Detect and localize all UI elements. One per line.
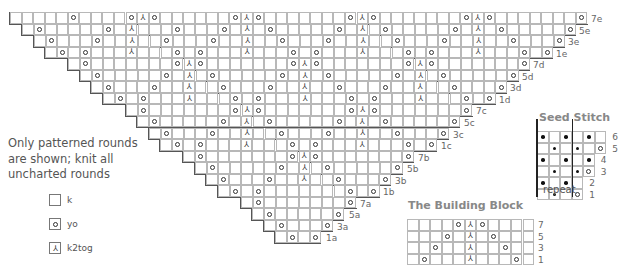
chart-cell <box>322 104 334 116</box>
chart-cell <box>403 81 415 93</box>
block-cell: ⅄ <box>465 242 477 254</box>
chart-cell <box>80 35 92 47</box>
chart-cell <box>149 104 161 116</box>
yo-icon <box>152 119 157 124</box>
yo-icon <box>579 15 584 20</box>
block-cell <box>407 254 419 266</box>
chart-cell <box>310 139 322 151</box>
yo-icon <box>164 131 169 136</box>
chart-cell <box>357 93 369 105</box>
chart-cell <box>288 104 300 116</box>
chart-cell <box>172 70 184 82</box>
chart-cell <box>172 12 184 24</box>
chart-cell <box>310 220 322 232</box>
repeat-label: repeat <box>543 184 576 195</box>
chart-cell <box>91 47 103 59</box>
chart-cell <box>311 47 323 59</box>
chart-cell <box>334 93 346 105</box>
ssk-icon: ⅄ <box>129 25 134 33</box>
chart-cell <box>172 81 184 93</box>
block-cell <box>488 254 500 266</box>
chart-cell <box>265 24 277 36</box>
yo-icon <box>383 27 388 32</box>
note-line: are shown; knit all <box>8 152 158 168</box>
chart-cell <box>564 12 576 24</box>
chart-cell <box>450 93 462 105</box>
chart-cell <box>207 128 219 140</box>
chart-cell <box>229 139 241 151</box>
yo-icon <box>503 245 508 250</box>
chart-cell <box>275 231 287 243</box>
chart-cell <box>57 24 69 36</box>
ssk-icon: ⅄ <box>468 255 473 263</box>
chart-cell <box>241 151 253 163</box>
chart-cell <box>473 93 485 105</box>
chart-cell <box>519 35 531 47</box>
chart-cell <box>253 197 265 209</box>
yo-icon <box>337 27 342 32</box>
chart-cell <box>149 70 161 82</box>
chart-cell <box>438 58 450 70</box>
chart-cell <box>484 58 496 70</box>
chart-cell <box>322 93 334 105</box>
chart-cell <box>207 47 219 59</box>
chart-cell <box>542 24 554 36</box>
chart-cell: ⅄ <box>126 47 138 59</box>
chart-cell <box>253 185 265 197</box>
seed-cell <box>595 131 607 143</box>
yo-icon <box>487 15 492 20</box>
yo-icon <box>337 119 342 124</box>
chart-cell <box>345 185 357 197</box>
block-cell <box>476 254 488 266</box>
chart-cell <box>137 47 149 59</box>
seed-cell <box>560 143 572 155</box>
yo-icon <box>464 15 469 20</box>
chart-cell: ⅄ <box>241 128 253 140</box>
chart-cell <box>184 24 196 36</box>
chart-cell <box>461 81 473 93</box>
chart-cell <box>333 208 345 220</box>
chart-cell <box>576 12 588 24</box>
chart-cell <box>288 93 300 105</box>
chart-cell <box>334 185 346 197</box>
chart-cell <box>391 116 403 128</box>
yo-icon <box>233 15 238 20</box>
yo-icon <box>164 38 169 43</box>
yo-icon <box>95 38 100 43</box>
block-cell <box>511 219 523 231</box>
chart-cell <box>219 93 231 105</box>
chart-cell: ⅄ <box>299 151 311 163</box>
yo-icon <box>348 200 353 205</box>
chart-cell <box>218 128 230 140</box>
chart-cell <box>103 70 115 82</box>
chart-cell <box>380 47 392 59</box>
seed-cell <box>537 131 549 143</box>
chart-cell <box>403 116 415 128</box>
chart-cell <box>253 70 265 82</box>
yo-icon <box>586 169 591 174</box>
block-cell <box>453 242 465 254</box>
ssk-icon: ⅄ <box>418 72 423 80</box>
chart-cell: ⅄ <box>299 58 311 70</box>
ssk-icon: ⅄ <box>418 83 423 91</box>
chart-cell <box>34 24 46 36</box>
chart-cell <box>519 24 531 36</box>
chart-cell <box>426 128 438 140</box>
chart-cell: ⅄ <box>183 81 195 93</box>
purl-dot-icon <box>553 147 557 151</box>
chart-cell <box>264 162 276 174</box>
chart-cell <box>426 24 438 36</box>
chart-cell: ⅄ <box>414 81 426 93</box>
chart-cell <box>149 12 161 24</box>
seed-cell <box>595 143 607 155</box>
chart-cell <box>311 70 323 82</box>
chart-cell: ⅄ <box>184 58 196 70</box>
chart-cell: ⅄ <box>357 35 369 47</box>
yo-icon <box>221 85 226 90</box>
chart-cell: ⅄ <box>137 12 149 24</box>
chart-cell <box>299 116 311 128</box>
chart-cell <box>345 58 357 70</box>
chart-cell <box>438 104 450 116</box>
legend-item-yo: yo <box>49 218 129 232</box>
chart-cell <box>56 12 68 24</box>
